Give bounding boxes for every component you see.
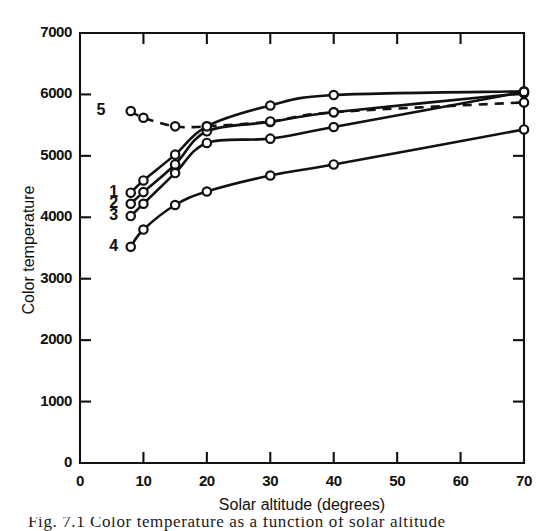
data-point-marker: [171, 201, 179, 209]
data-point-marker: [203, 122, 211, 130]
data-point-marker: [127, 107, 135, 115]
data-point-marker: [520, 88, 528, 96]
curve-series-5: [131, 102, 524, 127]
data-point-marker: [520, 98, 528, 106]
data-point-marker: [127, 243, 135, 251]
y-axis-title: Color temperature: [20, 185, 37, 314]
curve-series-2: [131, 93, 524, 204]
data-point-marker: [266, 134, 274, 142]
x-tick-label: 20: [199, 472, 215, 489]
data-point-marker: [266, 171, 274, 179]
y-tick-label: 3000: [40, 269, 72, 286]
y-tick-label: 7000: [40, 23, 72, 40]
x-tick-label: 30: [262, 472, 278, 489]
x-tick-label: 60: [453, 472, 469, 489]
series-label-3: 3: [109, 206, 118, 223]
curve-series-1: [131, 91, 524, 192]
series-label-5: 5: [97, 101, 106, 118]
x-tick-label: 0: [76, 472, 84, 489]
data-point-marker: [266, 101, 274, 109]
x-tick-label: 70: [516, 472, 532, 489]
data-point-marker: [171, 122, 179, 130]
data-point-marker: [139, 176, 147, 184]
data-point-marker: [171, 169, 179, 177]
x-axis-tick-labels: 010203040506070: [76, 472, 532, 489]
data-point-marker: [330, 123, 338, 131]
y-tick-label: 2000: [40, 330, 72, 347]
y-tick-label: 5000: [40, 146, 72, 163]
series-label-4: 4: [109, 237, 118, 254]
x-tick-label: 40: [326, 472, 342, 489]
data-point-marker: [330, 160, 338, 168]
y-tick-label: 0: [64, 453, 72, 470]
data-point-marker: [139, 225, 147, 233]
data-point-marker: [330, 108, 338, 116]
data-point-marker: [127, 189, 135, 197]
x-tick-label: 50: [389, 472, 405, 489]
x-axis-title: Solar altitude (degrees): [219, 496, 385, 513]
y-axis-tick-labels: 01000200030004000500060007000: [40, 23, 72, 470]
figure-container: 01000200030004000500060007000 0102030405…: [0, 0, 536, 531]
y-tick-label: 6000: [40, 84, 72, 101]
data-point-marker: [139, 188, 147, 196]
data-point-marker: [171, 160, 179, 168]
y-tick-label: 1000: [40, 392, 72, 409]
data-point-marker: [266, 117, 274, 125]
data-point-marker: [520, 125, 528, 133]
data-point-marker: [127, 212, 135, 220]
data-curves: [131, 91, 524, 246]
data-point-marker: [203, 139, 211, 147]
y-tick-label: 4000: [40, 207, 72, 224]
data-point-marker: [171, 150, 179, 158]
figure-caption-strip: Fig. 7.1 Color temperature as a function…: [0, 517, 536, 531]
color-temperature-chart: 01000200030004000500060007000 0102030405…: [0, 0, 536, 531]
data-point-marker: [139, 200, 147, 208]
figure-caption: Fig. 7.1 Color temperature as a function…: [28, 517, 446, 531]
data-point-marker: [127, 200, 135, 208]
data-point-marker: [139, 114, 147, 122]
data-point-marker: [330, 91, 338, 99]
x-tick-label: 10: [135, 472, 151, 489]
data-point-marker: [203, 187, 211, 195]
series-labels: 12345: [97, 101, 119, 254]
